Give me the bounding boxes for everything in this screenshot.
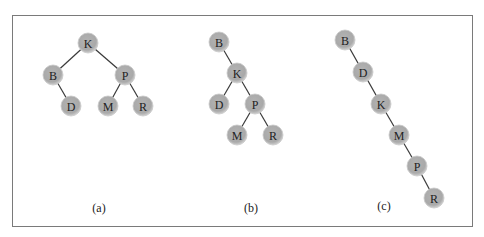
caption-a: (a) [92,201,105,215]
tree-node-b: B [43,65,63,85]
tree-node-p: P [407,156,427,176]
node-label: P [414,160,421,174]
node-label: P [252,98,259,112]
node-label: P [122,69,129,83]
tree-node-b: B [335,30,355,50]
tree-node-r: R [263,125,283,145]
node-label: K [84,37,93,51]
tree-node-d: D [353,62,373,82]
tree-node-r: R [424,188,444,208]
node-label: B [341,34,349,48]
tree-node-b: B [209,32,229,52]
tree-node-m: M [227,125,247,145]
tree-node-r: R [133,96,153,116]
trees-drawing: KBPDMR(a) BKDPMR(b) BDKMPR(c) [0,0,484,237]
tree-node-k: K [227,63,247,83]
node-label: D [359,66,368,80]
node-label: M [232,129,243,143]
tree-c-degenerate: BDKMPR(c) [335,30,444,213]
tree-node-p: P [245,94,265,114]
node-label: D [215,98,224,112]
node-label: R [269,129,277,143]
tree-node-m: M [389,125,409,145]
tree-node-k: K [78,33,98,53]
node-label: R [430,192,438,206]
node-label: K [377,98,386,112]
node-label: R [139,100,147,114]
caption-c: (c) [377,199,390,213]
tree-node-p: P [115,65,135,85]
node-label: M [394,129,405,143]
node-label: B [215,36,223,50]
node-label: B [49,69,57,83]
tree-node-m: M [98,96,118,116]
tree-b: BKDPMR(b) [209,32,283,215]
tree-a-balanced: KBPDMR(a) [43,33,153,215]
node-label: D [67,100,76,114]
node-label: M [103,100,114,114]
tree-node-d: D [61,96,81,116]
binary-search-trees-figure: KBPDMR(a) BKDPMR(b) BDKMPR(c) [0,0,484,237]
tree-node-k: K [371,94,391,114]
node-label: K [233,67,242,81]
tree-node-d: D [209,94,229,114]
caption-b: (b) [244,201,258,215]
